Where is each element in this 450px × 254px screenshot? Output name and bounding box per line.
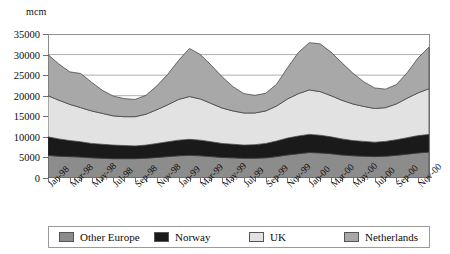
legend-label: Norway (175, 231, 210, 243)
stacked-area-chart: mcm 05000100001500020000250003000035000 … (0, 0, 450, 254)
y-axis-tick-label: 30000 (14, 49, 40, 60)
y-axis-tick-label: 5000 (19, 152, 40, 163)
x-axis-labels: Jan-98Mar-98May-98Jul-98Sep-98Nov-98Jan-… (0, 178, 450, 222)
y-axis-tick-label: 20000 (14, 90, 40, 101)
y-axis-tick-label: 15000 (14, 111, 40, 122)
y-axis-tick-label: 25000 (14, 70, 40, 81)
legend-label: Other Europe (80, 231, 140, 243)
y-axis-tick-label: 35000 (14, 29, 40, 40)
legend-item-other-europe[interactable]: Other Europe (49, 231, 144, 243)
area-series-layer (48, 34, 430, 178)
chart-legend: Other EuropeNorwayUKNetherlands (48, 226, 430, 248)
legend-swatch-icon (249, 232, 264, 242)
legend-item-norway[interactable]: Norway (144, 231, 239, 243)
legend-swatch-icon (154, 232, 169, 242)
legend-swatch-icon (344, 232, 359, 242)
legend-label: Netherlands (365, 231, 418, 243)
area-series-netherlands (48, 43, 429, 117)
legend-item-netherlands[interactable]: Netherlands (334, 231, 429, 243)
legend-item-uk[interactable]: UK (239, 231, 334, 243)
legend-label: UK (270, 231, 286, 243)
legend-swatch-icon (59, 232, 74, 242)
y-axis-tick-label: 10000 (14, 131, 40, 142)
